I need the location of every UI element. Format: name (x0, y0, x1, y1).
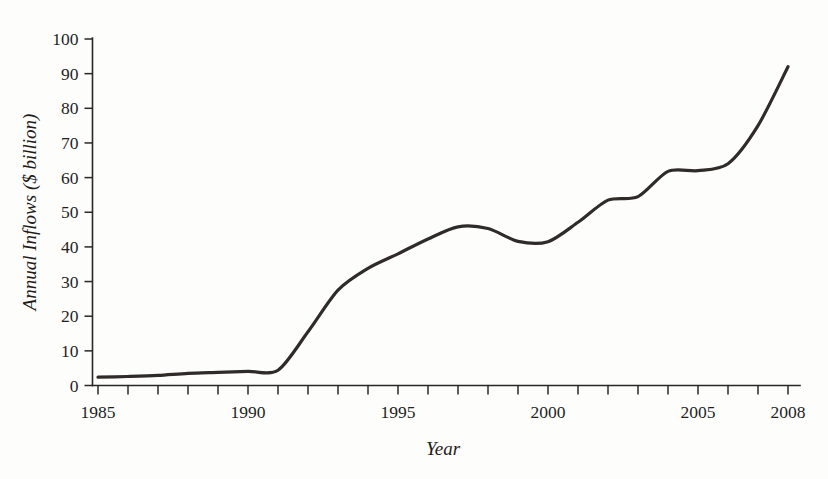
data-series (98, 67, 788, 377)
x-axis: 198519901995200020052008 (81, 386, 806, 422)
y-tick-label: 80 (61, 98, 79, 118)
y-axis-title: Annual Inflows ($ billion) (19, 114, 41, 313)
y-axis: 0102030405060708090100 (52, 29, 92, 396)
x-axis-title: Year (426, 438, 461, 459)
series-line (98, 67, 788, 377)
x-tick-label: 1995 (381, 402, 416, 422)
x-tick-label: 1990 (231, 402, 266, 422)
y-tick-label: 0 (70, 376, 79, 396)
y-tick-label: 100 (52, 29, 79, 49)
y-tick-label: 50 (61, 202, 79, 222)
chart-page: 0102030405060708090100 19851990199520002… (0, 0, 828, 479)
y-tick-label: 30 (61, 272, 79, 292)
x-tick-label: 1985 (81, 402, 116, 422)
y-tick-label: 90 (61, 64, 79, 84)
line-chart: 0102030405060708090100 19851990199520002… (0, 0, 828, 479)
x-tick-label: 2000 (531, 402, 566, 422)
y-tick-label: 20 (61, 306, 79, 326)
y-tick-label: 10 (61, 341, 79, 361)
y-tick-label: 40 (61, 237, 79, 257)
x-tick-label: 2008 (771, 402, 806, 422)
y-tick-label: 70 (61, 133, 79, 153)
y-tick-label: 60 (61, 168, 79, 188)
x-tick-label: 2005 (681, 402, 716, 422)
